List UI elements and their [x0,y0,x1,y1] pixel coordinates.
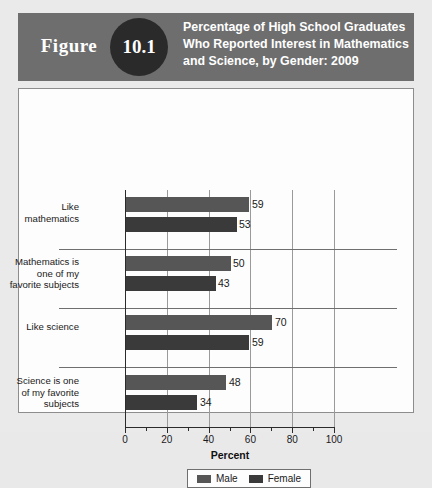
bar-value-female-like-mathematics: 53 [239,217,251,232]
legend-label-male: Male [216,473,238,484]
category-label-line: mathematics [0,213,79,225]
category-label-line: Like [0,201,79,213]
chart-legend: Male Female [187,469,311,488]
xtick-50 [230,427,231,431]
bar-female-like-science [126,335,249,350]
xtick-40 [209,427,210,433]
group-separator-1 [59,249,397,250]
x-axis-title: Percent [125,449,335,461]
category-label-line: subjects [0,398,79,410]
category-label-like-science: Like science [0,321,79,333]
xtick-label-100: 100 [319,434,349,445]
figure-title: Percentage of High School Graduates Who … [183,19,409,70]
figure-title-line-1: Percentage of High School Graduates [183,19,409,36]
bar-female-like-mathematics [126,217,237,232]
chart-panel: Like mathematics 59 53 Mathematics is on… [18,88,414,413]
xtick-label-20: 20 [152,434,182,445]
xtick-70 [271,427,272,431]
legend-label-female: Female [268,473,301,484]
xtick-100 [334,427,335,433]
bar-value-male-science-favorite: 48 [229,375,241,390]
xtick-10 [146,427,147,431]
bar-value-male-mathematics-favorite: 50 [233,256,245,271]
xtick-label-60: 60 [235,434,265,445]
bar-male-like-mathematics [126,197,249,212]
xtick-label-80: 80 [277,434,307,445]
category-label-line: one of my [0,268,79,280]
category-label-line: Science is one [0,375,79,387]
legend-item-female: Female [249,473,301,484]
xtick-90 [313,427,314,431]
xtick-label-0: 0 [110,434,140,445]
category-label-line: of my favorite [0,387,79,399]
figure-title-line-3: and Science, by Gender: 2009 [183,53,409,70]
figure-word-label: Figure [30,35,108,57]
xtick-80 [292,427,293,433]
xtick-0 [125,427,126,433]
xtick-label-40: 40 [194,434,224,445]
figure-number-badge: 10.1 [110,18,168,76]
bar-value-female-mathematics-favorite: 43 [218,276,230,291]
category-label-line: Mathematics is [0,256,79,268]
bar-value-female-science-favorite: 34 [200,395,212,410]
legend-item-male: Male [197,473,238,484]
bar-male-mathematics-favorite [126,256,231,271]
category-label-mathematics-favorite: Mathematics is one of my favorite subjec… [0,256,79,291]
category-label-like-mathematics: Like mathematics [0,201,79,224]
category-label-line: Like science [0,321,79,333]
bar-female-science-favorite [126,395,197,410]
group-separator-2 [59,308,397,309]
category-label-science-favorite: Science is one of my favorite subjects [0,375,79,410]
legend-swatch-female-icon [249,475,263,483]
figure-number-label: 10.1 [122,36,155,58]
bar-value-male-like-mathematics: 59 [252,197,264,212]
bar-male-like-science [126,315,272,330]
legend-swatch-male-icon [197,475,211,483]
group-separator-3 [59,367,397,368]
xtick-20 [167,427,168,433]
xtick-30 [188,427,189,431]
bar-value-female-like-science: 59 [252,335,264,350]
bar-female-mathematics-favorite [126,276,216,291]
bar-male-science-favorite [126,375,226,390]
figure-title-line-2: Who Reported Interest in Mathematics [183,36,409,53]
category-label-line: favorite subjects [0,279,79,291]
figure-header-bar: Figure 10.1 Percentage of High School Gr… [18,13,414,81]
xtick-60 [250,427,251,433]
bar-value-male-like-science: 70 [275,315,287,330]
